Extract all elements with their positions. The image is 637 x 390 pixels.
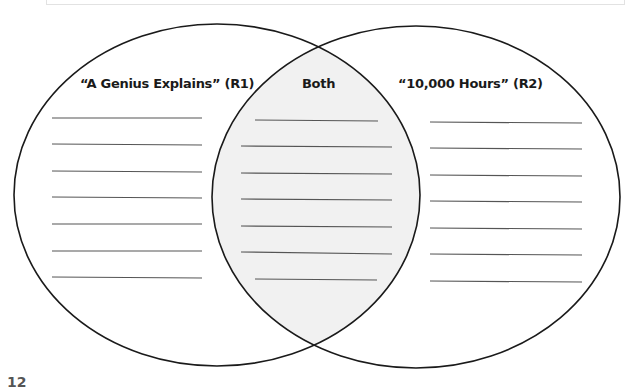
- writing-line[interactable]: [430, 254, 582, 255]
- writing-line[interactable]: [430, 175, 582, 176]
- writing-line[interactable]: [52, 171, 202, 172]
- writing-line[interactable]: [430, 148, 582, 149]
- writing-line[interactable]: [430, 122, 582, 123]
- writing-line[interactable]: [52, 197, 202, 198]
- right-circle-label: “10,000 Hours” (R2): [398, 76, 543, 91]
- writing-line[interactable]: [52, 277, 202, 278]
- intersection-label: Both: [302, 76, 335, 91]
- writing-line[interactable]: [430, 228, 582, 229]
- page-number: 12: [7, 374, 26, 390]
- left-writing-lines: [52, 118, 202, 278]
- left-circle-label: “A Genius Explains” (R1): [80, 76, 254, 91]
- right-writing-lines: [430, 122, 582, 282]
- writing-line[interactable]: [430, 201, 582, 202]
- writing-line[interactable]: [52, 144, 202, 145]
- writing-line[interactable]: [430, 281, 582, 282]
